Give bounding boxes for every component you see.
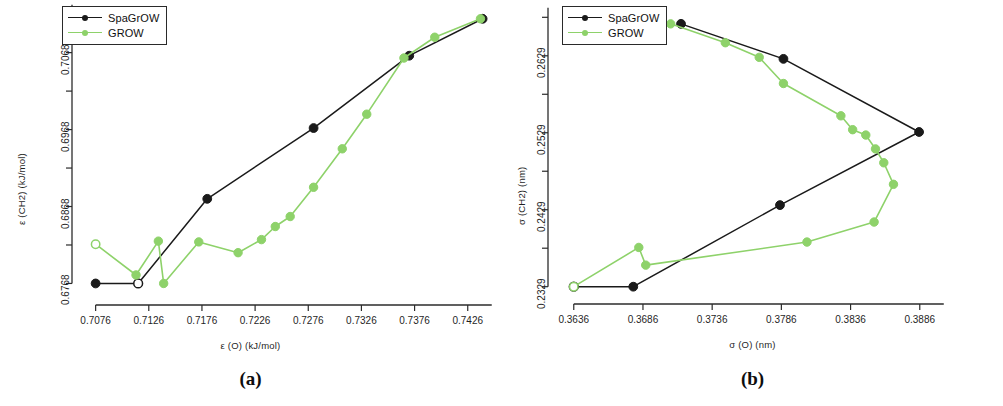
- legend-key-spagrow-icon-b: [568, 12, 602, 24]
- x-tick-label: 0.3836: [821, 314, 881, 325]
- y-tick-label: 0.2529: [536, 124, 547, 155]
- legend-label-grow-b: GROW: [608, 27, 644, 39]
- legend-entry-spagrow-a: SpaGrOW: [68, 10, 159, 25]
- legend-label-spagrow-b: SpaGrOW: [608, 12, 659, 24]
- legend-entry-grow-b: GROW: [568, 25, 659, 40]
- panel-caption-a: (a): [0, 368, 501, 390]
- x-tick-label: 0.3886: [890, 314, 950, 325]
- y-axis-title-b: σ (CH2) (nm): [516, 167, 527, 225]
- x-tick-label: 0.7076: [66, 315, 126, 326]
- x-axis-title-b: σ (O) (nm): [502, 339, 1003, 350]
- y-tick-label: 0.6868: [60, 198, 71, 229]
- legend-key-grow-icon-a: [68, 27, 102, 39]
- panel-caption-b: (b): [502, 368, 1003, 390]
- legend-b: SpaGrOW GROW: [562, 6, 667, 45]
- x-tick-label: 0.7426: [438, 315, 498, 326]
- x-tick-label: 0.7176: [172, 315, 232, 326]
- x-tick-label: 0.3636: [544, 314, 604, 325]
- x-axis-title-a: ε (O) (kJ/mol): [0, 340, 501, 351]
- x-tick-label: 0.7376: [385, 315, 445, 326]
- legend-a: SpaGrOW GROW: [62, 6, 167, 45]
- panel-b: σ (CH2) (nm) σ (O) (nm) SpaGrOW GROW (b)…: [502, 0, 1003, 406]
- x-tick-label: 0.3736: [682, 314, 742, 325]
- x-tick-label: 0.7226: [225, 315, 285, 326]
- legend-label-grow-a: GROW: [108, 27, 144, 39]
- y-tick-label: 0.2629: [536, 47, 547, 78]
- y-tick-label: 0.2329: [536, 278, 547, 309]
- legend-key-spagrow-icon-a: [68, 12, 102, 24]
- legend-entry-grow-a: GROW: [68, 25, 159, 40]
- x-tick-label: 0.7276: [278, 315, 338, 326]
- y-tick-label: 0.6968: [60, 121, 71, 152]
- y-axis-title-a: ε (CH2) (kJ/mol): [16, 153, 27, 225]
- y-tick-label: 0.6768: [60, 275, 71, 306]
- y-tick-label: 0.2429: [536, 201, 547, 232]
- y-tick-label: 0.7068: [60, 44, 71, 75]
- x-tick-label: 0.3686: [613, 314, 673, 325]
- panel-a: ε (CH2) (kJ/mol) ε (O) (kJ/mol) SpaGrOW …: [0, 0, 501, 406]
- x-tick-label: 0.7126: [119, 315, 179, 326]
- figure-two-panel-optimization-paths: ε (CH2) (kJ/mol) ε (O) (kJ/mol) SpaGrOW …: [0, 0, 1003, 406]
- x-tick-label: 0.3786: [751, 314, 811, 325]
- x-tick-label: 0.7326: [331, 315, 391, 326]
- legend-key-grow-icon-b: [568, 27, 602, 39]
- legend-label-spagrow-a: SpaGrOW: [108, 12, 159, 24]
- legend-entry-spagrow-b: SpaGrOW: [568, 10, 659, 25]
